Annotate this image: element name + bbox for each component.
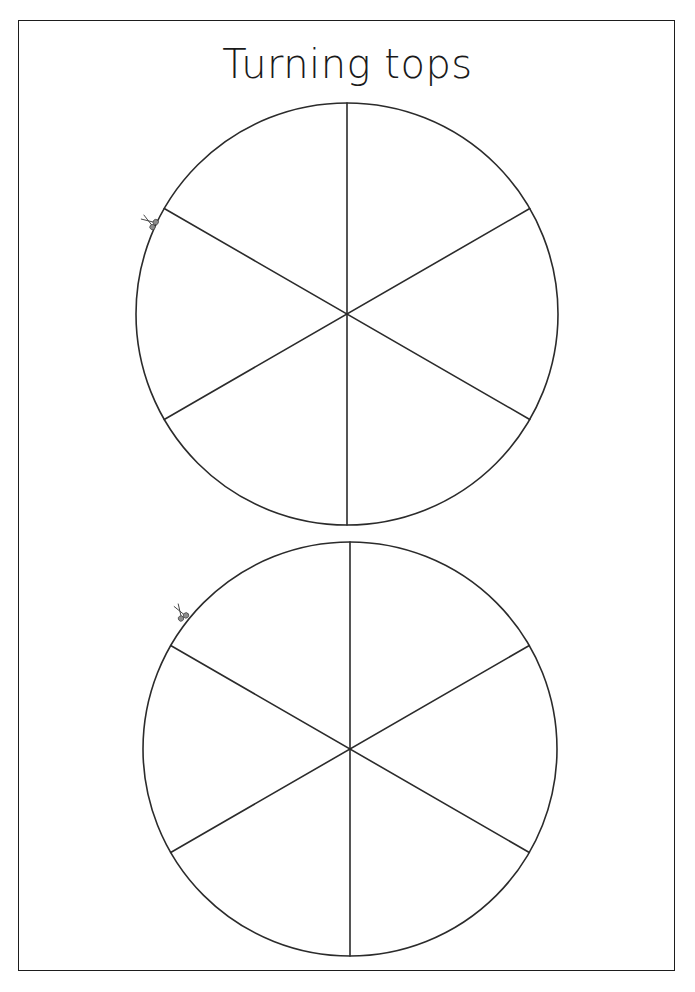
worksheet-page: Turning tops	[0, 0, 695, 992]
page-border-frame	[18, 20, 675, 971]
page-title: Turning tops	[0, 44, 695, 84]
